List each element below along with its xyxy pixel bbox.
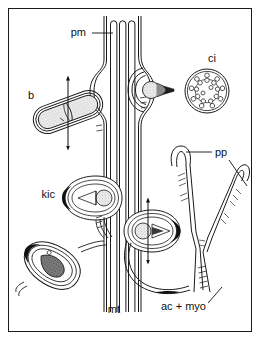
axoneme-cross-section (185, 69, 229, 113)
label-pm: pm (71, 26, 86, 38)
label-ci: ci (208, 52, 216, 64)
figure-root: pm b ci pp kic mt ac + myo (0, 0, 260, 340)
label-b: b (28, 89, 34, 101)
phagosome-middle (124, 210, 181, 252)
label-ac-myo: ac + myo (161, 300, 206, 312)
label-pp: pp (215, 146, 227, 158)
label-kic: kic (42, 188, 56, 200)
label-mt: mt (108, 303, 120, 315)
page-background (0, 0, 260, 340)
figure-canvas: pm b ci pp kic mt ac + myo (0, 0, 260, 340)
